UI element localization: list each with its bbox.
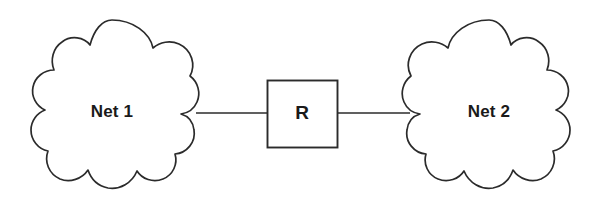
node-label-net2: Net 2 (468, 102, 511, 121)
node-label-router: R (295, 102, 309, 123)
network-diagram: Net 1 R Net 2 (0, 0, 602, 218)
node-router[interactable]: R (268, 81, 338, 148)
diagram-canvas-svg: Net 1 R Net 2 (0, 0, 602, 218)
node-net1[interactable]: Net 1 (31, 20, 199, 188)
node-label-net1: Net 1 (91, 102, 134, 121)
